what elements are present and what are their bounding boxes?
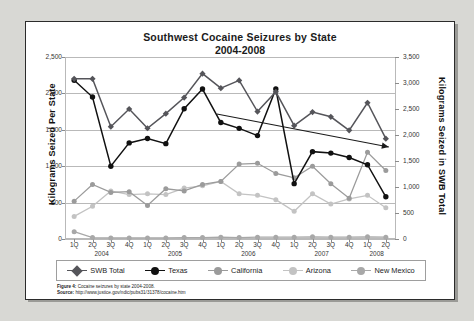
data-point [255,133,260,138]
data-point [365,234,370,239]
data-point [145,203,150,208]
plot-area: 05001,0001,5002,0002,500 05001,0001,5002… [65,57,395,239]
circle-marker-icon [208,266,228,275]
data-point [383,205,388,210]
data-point [310,191,315,196]
x-tick-label: 3Q [180,241,189,248]
legend-item-new-mexico[interactable]: New Mexico [351,266,414,275]
x-tick-label: 1Q [143,241,152,248]
right-axis-line [395,57,396,239]
x-tick-label: 3Q [107,241,116,248]
y-tick-mark-right [395,83,399,84]
data-point [328,235,333,240]
data-point [255,235,260,240]
legend-item-swb-total[interactable]: SWB Total [67,266,124,275]
x-tick-label: 2Q [382,241,391,248]
chart-legend: SWB TotalTexasCaliforniaArizonaNew Mexic… [56,260,426,281]
caption-text: Cocaine seizures by state 2004-2008. [76,284,154,289]
data-point [163,192,168,197]
x-axis-year-label: 2008 [370,250,384,257]
data-point [291,181,296,186]
data-point [237,235,242,240]
x-tick-label: 1Q [290,241,299,248]
data-point [383,235,388,240]
y-tick-label-right: 3,500 [403,53,437,60]
legend-label: Texas [168,266,187,275]
data-point [273,235,278,240]
data-point [273,197,278,202]
legend-label: SWB Total [90,266,124,275]
data-point [292,235,297,240]
data-point [90,94,95,99]
data-point [347,235,352,240]
y-tick-label-right: 1,000 [403,183,437,190]
legend-item-california[interactable]: California [208,266,262,275]
y-tick-mark-right [395,239,399,240]
data-point [200,182,205,187]
x-axis-year-label: 2007 [315,250,329,257]
circle-marker-icon [351,266,371,275]
y-axis-right-title: Kilograms Seized in SWB Total [437,51,447,241]
data-point [89,76,95,82]
y-tick-label-right: 500 [403,209,437,216]
chart-title: Southwest Cocaine Seizures by State [26,31,454,44]
source-url[interactable]: http://www.justice.gov/ndic/pubs31/31378… [74,290,186,295]
data-point [72,199,77,204]
legend-item-texas[interactable]: Texas [145,266,187,275]
x-axis-year-label: 2005 [168,250,182,257]
data-point [383,136,389,142]
x-tick-label: 1Q [70,241,79,248]
data-point [108,164,113,169]
data-point [90,204,95,209]
x-tick-label: 1Q [363,241,372,248]
data-point [310,234,315,239]
x-axis-year-label: 2004 [95,250,109,257]
data-point [255,161,260,166]
data-point [237,191,242,196]
series-swb-total [71,71,389,142]
data-point [218,179,223,184]
data-point [200,86,205,91]
source-label: Source: [57,290,74,295]
data-point [383,194,388,199]
data-point [182,188,187,193]
x-axis-year-label: 2006 [241,250,255,257]
data-point [200,235,205,240]
data-point [181,106,186,111]
arrow-head [381,143,388,149]
legend-item-arizona[interactable]: Arizona [283,266,331,275]
legend-label: Arizona [306,266,331,275]
y-tick-mark-right [395,57,399,58]
data-point [310,164,315,169]
data-point [127,235,132,240]
x-tick-label: 2Q [88,241,97,248]
circle-marker-icon [283,266,303,275]
y-tick-mark-right [395,109,399,110]
data-point [145,235,150,240]
data-point [72,214,77,219]
x-tick-label: 4Q [345,241,354,248]
page-canvas: Southwest Cocaine Seizures by State 2004… [0,0,474,321]
y-tick-label-right: 1,500 [403,157,437,164]
x-tick-label: 2Q [308,241,317,248]
data-point [365,162,370,167]
x-tick-label: 2Q [235,241,244,248]
y-tick-label-right: 3,000 [403,79,437,86]
x-tick-label: 4Q [272,241,281,248]
data-point [218,120,223,125]
x-tick-label: 3Q [253,241,262,248]
diamond-marker-icon [67,266,87,275]
data-point [108,235,113,240]
y-tick-label-right: 0 [403,235,437,242]
series-plot [65,57,395,239]
series-texas [71,78,388,200]
caption-label: Figure 4: [57,284,76,289]
data-point [236,77,242,83]
x-tick-label: 3Q [327,241,336,248]
source-line: Source: http://www.justice.gov/ndic/pubs… [57,290,437,296]
series-arizona [72,179,389,219]
legend-label: California [231,266,262,275]
legend-label: New Mexico [374,266,414,275]
data-point [182,235,187,240]
data-point [72,229,77,234]
